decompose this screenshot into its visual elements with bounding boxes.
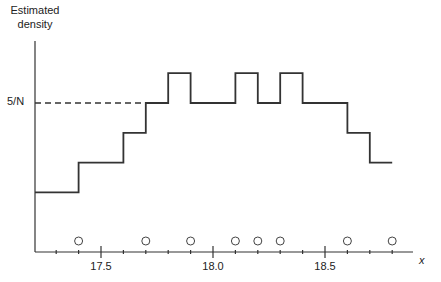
x-tick-label-18-0: 18.0	[193, 260, 233, 272]
data-point-circle	[231, 237, 239, 245]
x-tick-label-17-5: 17.5	[81, 260, 121, 272]
axes	[35, 41, 413, 252]
density-chart	[0, 0, 441, 282]
data-points	[75, 237, 397, 245]
x-axis-label: x	[419, 254, 425, 266]
data-point-circle	[276, 237, 284, 245]
data-point-circle	[187, 237, 195, 245]
histogram-step-line	[35, 73, 392, 192]
data-point-circle	[142, 237, 150, 245]
reference-label: 5/N	[7, 95, 24, 107]
data-point-circle	[75, 237, 83, 245]
data-point-circle	[388, 237, 396, 245]
data-point-circle	[343, 237, 351, 245]
y-axis-label: Estimated density	[0, 3, 70, 31]
x-tick-label-18-5: 18.5	[305, 260, 345, 272]
y-axis-label-line1: Estimated	[0, 3, 70, 17]
y-axis-label-line2: density	[0, 17, 70, 31]
data-point-circle	[254, 237, 262, 245]
